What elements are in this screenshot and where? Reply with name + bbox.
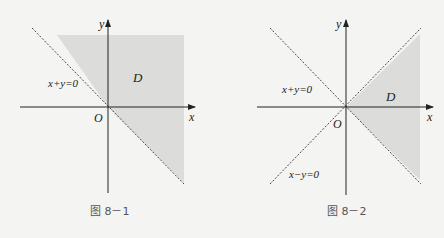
x-axis-label: x (426, 110, 433, 124)
figure-8-2: y x O D x+y=0 x−y=0 图 8－2 (257, 17, 433, 218)
y-axis-label: y (98, 17, 105, 31)
caption-8-1: 图 8－1 (90, 205, 130, 218)
origin-label: O (333, 117, 342, 131)
line-label-x-plus-y: x+y=0 (281, 83, 313, 95)
shaded-region-d (57, 35, 184, 183)
region-label-d: D (385, 89, 396, 104)
line-label-x-minus-y: x−y=0 (288, 168, 320, 180)
x-axis-label: x (188, 110, 195, 124)
origin-label: O (94, 111, 103, 125)
region-label-d: D (132, 70, 143, 85)
figure-canvas: y x O D x+y=0 图 8－1 y x O D x+y=0 x−y=0 … (0, 0, 444, 238)
y-axis-label: y (335, 17, 342, 31)
line-label-x-plus-y: x+y=0 (47, 77, 79, 89)
figure-8-1: y x O D x+y=0 图 8－1 (20, 17, 195, 218)
caption-8-2: 图 8－2 (327, 205, 367, 218)
